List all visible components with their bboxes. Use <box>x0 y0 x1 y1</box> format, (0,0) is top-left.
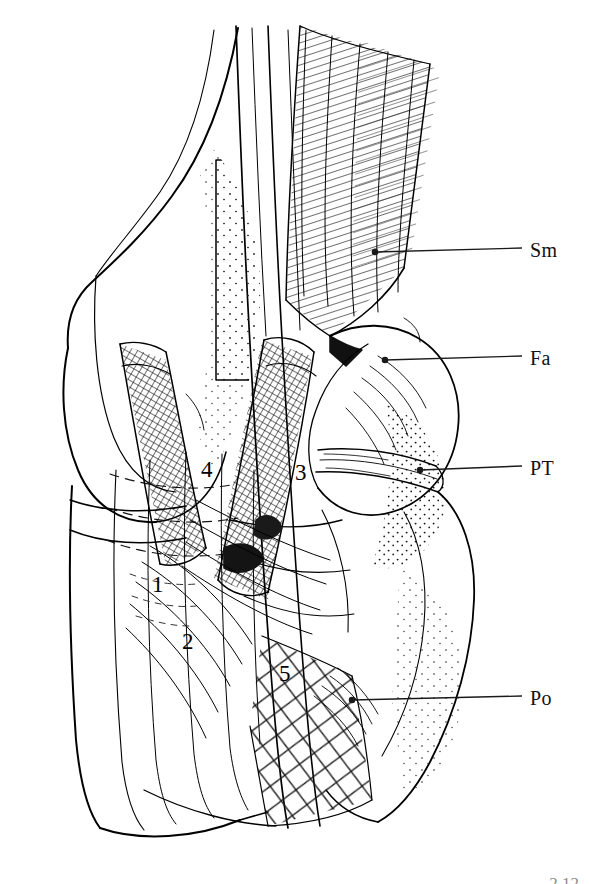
leader-dot-pt <box>417 467 422 472</box>
leader-dot-po <box>349 697 354 702</box>
leader-line-fa <box>385 356 522 360</box>
structure-number-1: 1 <box>152 573 164 596</box>
structure-number-5: 5 <box>279 662 291 685</box>
leader-dot-fa <box>382 357 387 362</box>
structure-number-3: 3 <box>295 461 307 484</box>
callout-label-sm: Sm <box>530 240 557 260</box>
structure-number-2: 2 <box>182 630 194 653</box>
leader-dot-sm <box>372 249 377 254</box>
callout-label-pt: PT <box>530 458 554 478</box>
structure-number-4: 4 <box>201 458 213 481</box>
callout-label-po: Po <box>530 688 552 708</box>
callout-label-fa: Fa <box>530 348 551 368</box>
figure-corner-mark: 2.12 <box>549 874 579 884</box>
